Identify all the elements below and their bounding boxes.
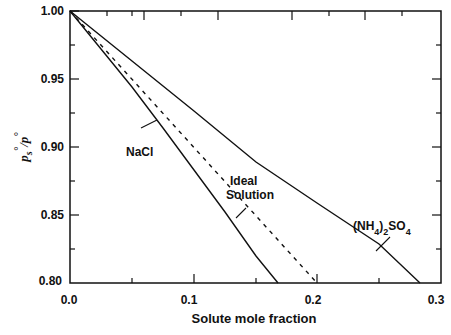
ideal-label-line1: Ideal [230,174,257,188]
y-label-sub-s: s [23,151,34,156]
y-tick-label: 0.80 [39,274,63,288]
y-tick-labels: 1.00 0.95 0.90 0.85 0.80 [39,4,65,288]
y-tick-label: 0.95 [41,72,65,86]
nacl-label: NaCl [126,145,153,159]
nh4-sub4b: 4 [406,227,411,237]
ideal-label-line2: Solution [226,188,274,202]
x-axis-label: Solute mole fraction [192,311,317,326]
x-tick-label: 0.3 [428,293,445,307]
nacl-curve [70,11,278,283]
nacl-leader [141,120,157,128]
ideal-leader [236,208,246,218]
y-axis-label: ps°/p° [12,132,34,163]
y-label-degree2: ° [12,132,24,137]
nh4-open: (NH [353,219,374,233]
ammonium-sulfate-curve [70,11,420,283]
ammonium-sulfate-label: (NH4)2SO4 [353,219,411,237]
ideal-solution-curve [70,11,317,283]
x-tick-labels: 0.0 0.1 0.2 0.3 [61,293,445,307]
curves [70,11,420,283]
nh4-so: SO [388,219,405,233]
y-ticks [70,11,441,249]
y-tick-label: 1.00 [41,4,65,18]
y-tick-label: 0.85 [41,208,65,222]
x-tick-label: 0.0 [61,293,78,307]
y-tick-label: 0.90 [41,140,65,154]
svg-text:ps°/p°: ps°/p° [12,132,34,163]
x-tick-label: 0.1 [181,293,198,307]
chart: 1.00 0.95 0.90 0.85 0.80 0.0 0.1 0.2 0.3… [0,0,451,335]
x-tick-label: 0.2 [305,293,322,307]
